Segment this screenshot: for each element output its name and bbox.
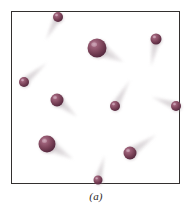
figure-container: (a) (0, 0, 192, 217)
figure-caption: (a) (0, 190, 192, 202)
container-box (11, 11, 180, 184)
